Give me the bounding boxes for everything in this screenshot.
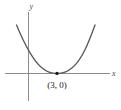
- x-axis-label: x: [111, 69, 116, 78]
- graph-canvas: y x (3, 0): [0, 0, 121, 110]
- vertex-coordinate-label: (3, 0): [47, 80, 67, 90]
- vertex-dot: [55, 72, 58, 75]
- y-axis-label: y: [29, 2, 34, 11]
- parabola-figure: y x (3, 0): [0, 0, 121, 110]
